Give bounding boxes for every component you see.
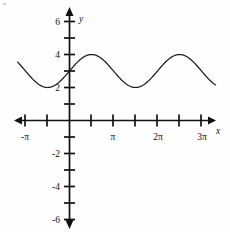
y-tick-label-neg-4: -4: [52, 182, 60, 192]
x-tick-label-2pi: 2π: [153, 132, 163, 142]
y-axis-top-arrow-icon: [66, 7, 74, 16]
y-tick-label-neg-6: -6: [52, 215, 60, 225]
x-axis-left-arrow-icon: [14, 117, 22, 125]
x-tick-label-pi: π: [111, 132, 116, 142]
x-axis-group: -π π 2π 3π x: [14, 115, 221, 143]
y-tick-label-4: 4: [55, 50, 60, 60]
x-axis-right-arrow-icon: [208, 117, 216, 125]
y-axis-bottom-arrow-icon: [66, 220, 74, 229]
x-tick-label-neg-pi: -π: [21, 132, 29, 142]
y-axis-group: 6 4 2 -2 -4 -6 y: [52, 7, 84, 229]
y-axis-label: y: [78, 14, 84, 24]
plot-canvas: -π π 2π 3π x: [0, 0, 230, 232]
x-axis-label: x: [215, 126, 221, 136]
y-tick-label-6: 6: [55, 17, 60, 27]
sine-curve-path: [18, 55, 216, 88]
x-tick-label-3pi: 3π: [197, 132, 207, 142]
y-tick-label-neg-2: -2: [52, 149, 60, 159]
sine-curve-graph: -π π 2π 3π x: [0, 0, 230, 232]
scan-speck: [3, 3, 6, 5]
